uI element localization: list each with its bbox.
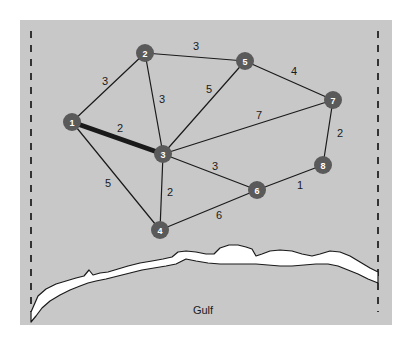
- graph-node-label-8: 8: [320, 161, 325, 171]
- graph-node-label-1: 1: [69, 118, 74, 128]
- edge-weight-label-3-6: 3: [212, 160, 218, 172]
- graph-node-label-4: 4: [157, 226, 162, 236]
- edge-weight-label-4-6: 6: [216, 209, 222, 221]
- edge-weight-label-2-3: 3: [159, 93, 165, 105]
- graph-node-7[interactable]: 7: [324, 91, 342, 109]
- edge-weight-label-3-4: 2: [167, 186, 173, 198]
- graph-node-label-2: 2: [142, 49, 147, 59]
- edge-weight-label-3-7: 7: [256, 109, 262, 121]
- edge-weight-label-7-8: 2: [337, 127, 343, 139]
- graph-node-3[interactable]: 3: [154, 145, 172, 163]
- map-figure: 3253325376412 12345678 Gulf: [0, 0, 405, 347]
- graph-node-label-3: 3: [160, 150, 165, 160]
- graph-node-5[interactable]: 5: [236, 52, 254, 70]
- edge-weight-label-1-2: 3: [102, 75, 108, 87]
- graph-node-8[interactable]: 8: [314, 156, 332, 174]
- graph-node-2[interactable]: 2: [136, 44, 154, 62]
- graph-node-4[interactable]: 4: [151, 221, 169, 239]
- edge-weight-label-1-4: 5: [105, 177, 111, 189]
- graph-node-label-5: 5: [242, 57, 247, 67]
- edge-weight-label-3-5: 5: [206, 83, 212, 95]
- network-map-svg: 3253325376412 12345678 Gulf: [0, 0, 405, 347]
- edge-weight-label-6-8: 1: [297, 179, 303, 191]
- graph-node-label-6: 6: [254, 186, 259, 196]
- edge-weight-label-1-3: 2: [117, 122, 123, 134]
- gulf-label: Gulf: [193, 304, 214, 316]
- edge-weight-label-2-5: 3: [193, 40, 199, 52]
- graph-node-label-7: 7: [330, 96, 335, 106]
- graph-node-6[interactable]: 6: [248, 181, 266, 199]
- edge-weight-label-5-7: 4: [291, 65, 297, 77]
- graph-node-1[interactable]: 1: [63, 113, 81, 131]
